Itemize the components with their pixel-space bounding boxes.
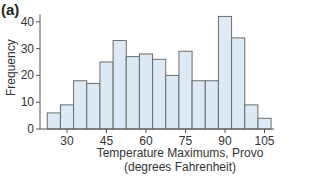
histogram-bar xyxy=(60,105,73,129)
histogram-bar xyxy=(218,16,231,129)
histogram-bar xyxy=(74,81,87,129)
y-tick-label: 30 xyxy=(21,42,35,56)
histogram-bar xyxy=(232,38,245,129)
x-axis-label-line2: (degrees Fahrenheit) xyxy=(80,160,279,174)
y-tick-label: 40 xyxy=(21,15,35,29)
histogram-bar xyxy=(47,113,60,129)
histogram-bar xyxy=(139,54,152,129)
histogram-bar xyxy=(205,81,218,129)
y-tick-label: 20 xyxy=(21,68,35,82)
histogram-bar xyxy=(87,83,100,129)
histogram-bar xyxy=(245,105,258,129)
histogram-bar xyxy=(153,59,166,129)
histogram-bar xyxy=(113,41,126,129)
histogram-bar xyxy=(192,81,205,129)
histogram-bar xyxy=(166,75,179,129)
y-tick-label: 10 xyxy=(21,95,35,109)
y-tick-label: 0 xyxy=(27,122,34,136)
histogram-bar xyxy=(100,62,113,129)
histogram-bar xyxy=(126,57,139,129)
histogram-bar xyxy=(179,51,192,129)
x-tick-label: 30 xyxy=(60,134,74,148)
x-axis-label-line1: Temperature Maximums, Provo xyxy=(80,146,279,160)
histogram-bar xyxy=(258,118,271,129)
